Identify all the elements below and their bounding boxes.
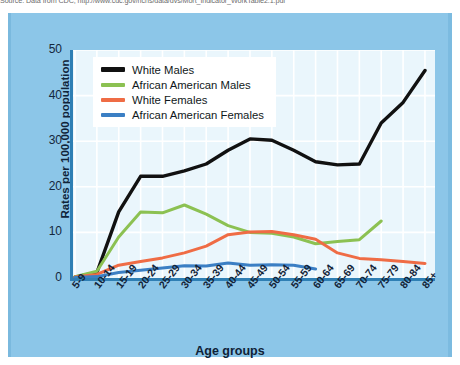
y-tick-50: 50	[34, 42, 62, 56]
source-note: Source: Data from CDC, http://www.cdc.go…	[0, 0, 460, 6]
legend-label-african-american-females: African American Females	[132, 109, 264, 121]
y-tick-40: 40	[34, 88, 62, 102]
panel-right-edge	[448, 13, 452, 357]
legend-item-white-males: White Males	[101, 62, 270, 77]
panel-left-edge	[8, 13, 11, 357]
legend-item-african-american-males: African American Males	[101, 77, 270, 92]
legend-swatch-african-american-females	[101, 113, 125, 117]
x-axis-title: Age groups	[8, 344, 452, 358]
legend: White Males African American Males White…	[93, 57, 276, 127]
legend-swatch-white-males	[101, 67, 125, 72]
legend-label-white-males: White Males	[132, 64, 194, 76]
legend-swatch-african-american-males	[101, 83, 125, 87]
y-tick-20: 20	[34, 179, 62, 193]
legend-label-african-american-males: African American Males	[132, 79, 251, 91]
y-tick-10: 10	[34, 224, 62, 238]
chart-panel: Rates per 100,000 population 01020304050…	[8, 13, 452, 357]
legend-label-white-females: White Females	[132, 94, 207, 106]
legend-item-african-american-females: African American Females	[101, 107, 270, 122]
y-tick-0: 0	[34, 270, 62, 284]
legend-swatch-white-females	[101, 98, 125, 102]
chart-page: Source: Data from CDC, http://www.cdc.go…	[0, 0, 460, 365]
y-tick-30: 30	[34, 133, 62, 147]
legend-item-white-females: White Females	[101, 92, 270, 107]
